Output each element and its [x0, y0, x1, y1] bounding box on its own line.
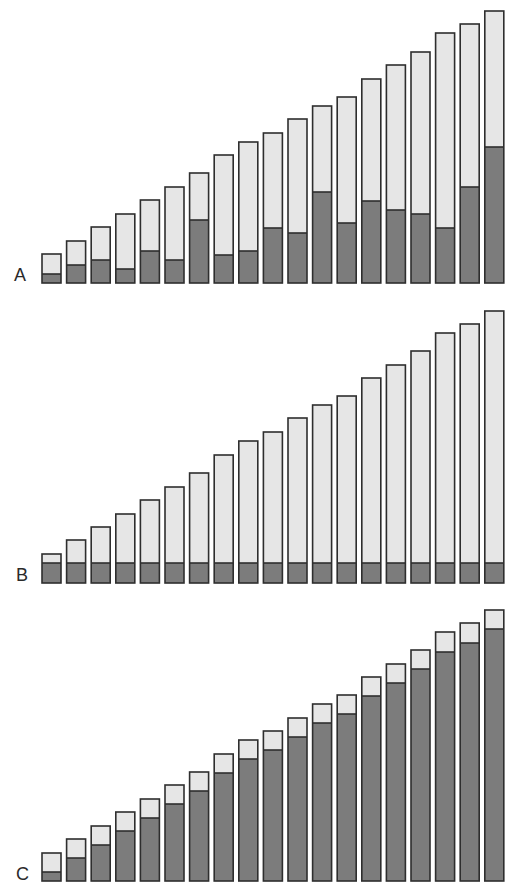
- bar-segment-light: [214, 455, 233, 563]
- bar-segment-dark: [42, 274, 61, 283]
- bar-segment-dark: [288, 563, 307, 583]
- bar-c-11: [288, 718, 307, 881]
- panel-c-bars: [42, 610, 504, 881]
- bar-segment-dark: [411, 214, 430, 283]
- bar-b-8: [214, 455, 233, 583]
- bar-c-1: [42, 853, 61, 881]
- bar-segment-dark: [313, 563, 332, 583]
- bar-c-12: [313, 704, 332, 881]
- bar-segment-light: [460, 324, 479, 563]
- bar-segment-dark: [436, 228, 455, 283]
- bar-b-7: [190, 473, 209, 583]
- bar-segment-light: [263, 133, 282, 228]
- bar-segment-light: [239, 441, 258, 563]
- bar-segment-dark: [67, 563, 86, 583]
- panel-a-bars: [42, 11, 504, 283]
- bar-segment-light: [485, 11, 504, 147]
- bar-segment-dark: [91, 845, 110, 881]
- bar-c-15: [386, 664, 405, 881]
- bar-segment-dark: [460, 563, 479, 583]
- bar-segment-light: [140, 500, 159, 563]
- bar-a-4: [116, 214, 135, 283]
- bar-a-2: [67, 241, 86, 283]
- bar-segment-light: [288, 119, 307, 233]
- bar-segment-dark: [362, 563, 381, 583]
- bar-segment-dark: [263, 563, 282, 583]
- bar-segment-dark: [165, 260, 184, 283]
- bar-c-18: [460, 623, 479, 881]
- bar-segment-dark: [485, 629, 504, 881]
- bar-segment-light: [140, 200, 159, 251]
- bar-segment-dark: [485, 147, 504, 283]
- bar-segment-light: [386, 365, 405, 563]
- panel-a: A: [14, 11, 504, 285]
- bar-a-8: [214, 155, 233, 283]
- bar-segment-dark: [165, 563, 184, 583]
- bar-segment-dark: [91, 563, 110, 583]
- bar-segment-light: [288, 418, 307, 563]
- bar-a-15: [386, 65, 405, 283]
- panel-b: B: [16, 311, 504, 585]
- bar-segment-light: [214, 754, 233, 773]
- bar-c-19: [485, 610, 504, 881]
- bar-c-13: [337, 695, 356, 881]
- bar-c-4: [116, 812, 135, 881]
- bar-segment-light: [165, 785, 184, 804]
- bar-segment-light: [313, 405, 332, 563]
- bar-segment-dark: [140, 251, 159, 283]
- bar-segment-light: [116, 812, 135, 831]
- bar-segment-dark: [288, 233, 307, 283]
- bar-segment-dark: [214, 563, 233, 583]
- bar-segment-dark: [263, 228, 282, 283]
- bar-a-12: [313, 106, 332, 283]
- bar-c-17: [436, 632, 455, 881]
- bar-segment-light: [165, 187, 184, 260]
- bar-segment-light: [386, 65, 405, 210]
- bar-segment-light: [485, 610, 504, 629]
- bar-segment-light: [91, 227, 110, 260]
- bar-segment-dark: [460, 643, 479, 881]
- bar-segment-dark: [67, 858, 86, 881]
- bar-segment-light: [337, 695, 356, 714]
- bar-segment-dark: [91, 260, 110, 283]
- bar-b-9: [239, 441, 258, 583]
- bar-c-14: [362, 677, 381, 881]
- bar-segment-dark: [116, 269, 135, 283]
- bar-segment-dark: [313, 192, 332, 283]
- bar-segment-dark: [140, 818, 159, 881]
- bar-segment-light: [42, 554, 61, 563]
- bar-a-11: [288, 119, 307, 283]
- bar-segment-light: [91, 527, 110, 563]
- bar-b-3: [91, 527, 110, 583]
- bar-b-5: [140, 500, 159, 583]
- bar-b-19: [485, 311, 504, 583]
- bar-segment-light: [263, 432, 282, 563]
- stacked-bar-chart-figure: A B C: [0, 0, 512, 892]
- bar-a-17: [436, 33, 455, 283]
- bar-segment-dark: [140, 563, 159, 583]
- bar-segment-light: [436, 632, 455, 652]
- bar-b-11: [288, 418, 307, 583]
- bar-c-3: [91, 826, 110, 881]
- bar-c-6: [165, 785, 184, 881]
- bar-segment-light: [362, 677, 381, 696]
- bar-segment-light: [337, 396, 356, 563]
- bar-segment-dark: [386, 683, 405, 881]
- bar-segment-light: [313, 704, 332, 723]
- bar-segment-light: [67, 839, 86, 858]
- bar-segment-light: [362, 79, 381, 201]
- bar-a-14: [362, 79, 381, 283]
- bar-segment-light: [239, 740, 258, 759]
- bar-segment-dark: [42, 563, 61, 583]
- bar-segment-dark: [436, 563, 455, 583]
- bar-segment-light: [214, 155, 233, 255]
- bar-c-9: [239, 740, 258, 881]
- bar-b-14: [362, 378, 381, 583]
- bar-b-10: [263, 432, 282, 583]
- bar-segment-dark: [214, 773, 233, 881]
- bar-segment-light: [165, 487, 184, 563]
- bar-segment-dark: [436, 652, 455, 881]
- bar-segment-dark: [411, 669, 430, 881]
- bar-a-6: [165, 187, 184, 283]
- bar-segment-dark: [386, 210, 405, 283]
